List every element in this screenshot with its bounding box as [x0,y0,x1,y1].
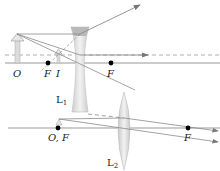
image-arrow-head [55,49,62,54]
object-arrow-stem [15,40,20,63]
label-image: I [55,68,61,79]
converging-lens-l2 [118,92,130,170]
label-focal-right: F [106,68,115,79]
lens-label-l1: L1 [56,94,67,107]
label-focal-left: F [43,68,52,79]
label-object: O [13,68,21,79]
focal-point-right [109,61,114,66]
focal-point-right-bottom [186,126,191,131]
lens-label-l2: L2 [107,157,118,170]
lens-top-shade [71,27,89,36]
focal-point-object [56,126,61,131]
ray-out-top [124,118,218,131]
object-arrow-small [56,119,62,125]
ray-through-center-bottom [59,119,218,142]
bottom-diagram: O, F F L2 [8,92,220,170]
label-focal-right-bottom: F [183,132,192,143]
diverging-lens-l1 [71,27,89,112]
lens-diagram: O F I F L1 O, F F L2 [0,0,220,171]
ray-to-lens-top [59,118,124,119]
focal-point-left [46,61,51,66]
top-diagram: O F I F L1 [5,5,220,112]
ray-diverged-up [80,5,140,34]
ray-toward-focus [17,34,80,55]
label-object-focal: O, F [48,132,70,143]
